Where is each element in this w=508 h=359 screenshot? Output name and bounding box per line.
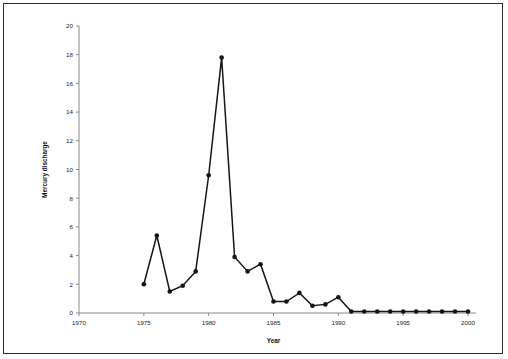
data-point (245, 269, 250, 274)
x-axis-tick-label: 1995 (396, 319, 410, 326)
chart-plot-area: 02468101214161820 1970197519801985199019… (4, 4, 504, 355)
data-point (284, 299, 289, 304)
series-line-mercury-discharge (144, 58, 468, 312)
data-point (466, 309, 471, 314)
data-point (167, 289, 172, 294)
data-point (310, 304, 315, 309)
y-axis-tick-label: 16 (66, 80, 73, 87)
data-point (427, 309, 432, 314)
data-series-mercury-discharge (142, 55, 471, 314)
x-axis-tick-label: 1975 (137, 319, 151, 326)
y-axis-tick-label: 10 (66, 166, 73, 173)
y-axis: 02468101214161820 (66, 22, 79, 316)
y-axis-tick-label: 0 (70, 309, 74, 316)
data-point (297, 291, 302, 296)
data-point (232, 255, 237, 260)
x-axis-tick-label: 1985 (267, 319, 281, 326)
data-point (193, 269, 198, 274)
x-axis: 1970197519801985199019952000 (72, 313, 476, 326)
x-axis-tick-label: 1980 (202, 319, 216, 326)
y-axis-tick-label: 6 (70, 223, 74, 230)
data-point (206, 173, 211, 178)
data-point (349, 309, 354, 314)
mercury-discharge-line-chart: 02468101214161820 1970197519801985199019… (4, 4, 504, 355)
data-point (336, 295, 341, 300)
data-point (401, 309, 406, 314)
data-point (323, 302, 328, 307)
data-point (258, 262, 263, 267)
y-axis-tick-label: 4 (70, 252, 74, 259)
data-point (440, 309, 445, 314)
y-axis-tick-label: 12 (66, 137, 73, 144)
x-axis-title: Year (267, 337, 281, 344)
y-axis-tick-label: 2 (70, 281, 74, 288)
x-axis-tick-label: 2000 (461, 319, 475, 326)
data-point (142, 282, 147, 287)
y-axis-tick-label: 18 (66, 51, 73, 58)
data-point (375, 309, 380, 314)
y-axis-tick-label: 8 (70, 195, 74, 202)
y-axis-tick-label: 14 (66, 108, 73, 115)
x-axis-tick-label: 1970 (72, 319, 86, 326)
data-point (362, 309, 367, 314)
data-point (180, 283, 185, 288)
data-point (155, 233, 160, 238)
data-point (453, 309, 458, 314)
y-axis-title: Mercury discharge (41, 141, 49, 198)
data-point (388, 309, 393, 314)
data-point (414, 309, 419, 314)
data-point (271, 299, 276, 304)
figure-border: 02468101214161820 1970197519801985199019… (3, 3, 503, 354)
x-axis-tick-label: 1990 (331, 319, 345, 326)
data-point (219, 55, 224, 60)
y-axis-tick-label: 20 (66, 22, 73, 29)
